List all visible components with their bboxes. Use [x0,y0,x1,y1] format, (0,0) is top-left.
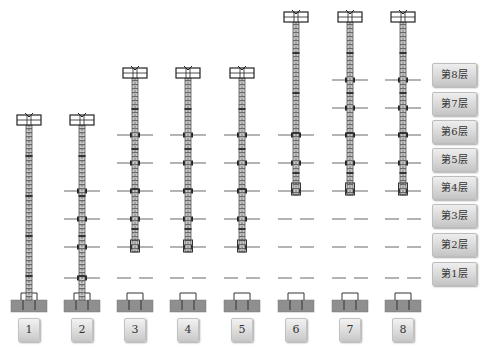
stage-number-4: 4 [177,318,199,342]
mast-stage-4 [170,66,206,312]
mast-stage-8 [385,10,421,312]
stage-number-8: 8 [392,318,414,342]
mast-stage-6 [278,10,314,312]
floor-label-2: 第2层 [432,233,477,257]
floor-label-7: 第7层 [432,92,477,116]
floor-label-6: 第6层 [432,120,477,144]
stage-number-6: 6 [285,318,307,342]
floor-label-1: 第1层 [432,262,477,286]
stage-number-7: 7 [339,318,361,342]
stage-number-3: 3 [124,318,146,342]
mast-stage-3 [117,66,153,312]
stage-number-5: 5 [231,318,253,342]
climbing-sequence-diagram: 第8层 第7层 第6层 第5层 第4层 第3层 第2层 第1层 1 2 3 4 … [0,0,484,353]
floor-label-4: 第4层 [432,176,477,200]
floor-label-5: 第5层 [432,148,477,172]
mast-diagram-graphic [0,0,484,353]
stage-number-2: 2 [71,318,93,342]
stage-number-1: 1 [18,318,40,342]
mast-stage-2 [64,113,100,312]
mast-stage-7 [332,10,368,312]
mast-stage-5 [224,66,260,312]
floor-label-8: 第8层 [432,63,477,87]
floor-label-3: 第3层 [432,204,477,228]
mast-stage-1 [11,113,47,312]
